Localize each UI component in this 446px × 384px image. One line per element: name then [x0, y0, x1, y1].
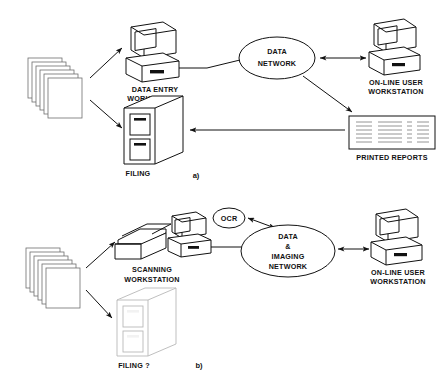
- ocr-label: OCR: [221, 214, 238, 223]
- ocr-node-icon: OCR: [213, 208, 245, 228]
- data-entry-label-line1: DATA ENTRY: [132, 85, 179, 94]
- online-user-a-label-line2: WORKSTATION: [368, 87, 423, 96]
- online-user-b-label-line2: WORKSTATION: [370, 277, 425, 286]
- online-user-workstation-icon-a: ON-LINE USER WORKSTATION: [368, 19, 423, 96]
- online-user-b-label-line1: ON-LINE USER: [371, 268, 426, 277]
- scanning-label-line2: WORKSTATION: [124, 275, 179, 284]
- data-entry-workstation-icon: DATA ENTRY WORKSTATION: [126, 22, 183, 103]
- caption-b: b): [195, 361, 203, 370]
- printed-reports-label: PRINTED REPORTS: [356, 153, 427, 162]
- data-network-label-line2: NETWORK: [258, 59, 297, 68]
- data-network-ellipse: DATA NETWORK: [239, 37, 315, 79]
- imaging-label-line2: &: [285, 242, 290, 251]
- scanning-label-line1: SCANNING: [132, 265, 172, 274]
- imaging-network-ellipse: DATA & IMAGING NETWORK: [241, 225, 335, 277]
- data-network-label-line1: DATA: [267, 47, 287, 56]
- online-user-workstation-icon-b: ON-LINE USER WORKSTATION: [370, 209, 425, 286]
- online-user-a-label-line1: ON-LINE USER: [369, 78, 424, 87]
- imaging-label-line1: DATA: [278, 232, 298, 241]
- caption-a: a): [193, 171, 200, 180]
- figure-root: DATA ENTRY WORKSTATION FILING DATA NETWO…: [0, 0, 446, 384]
- imaging-label-line3: IMAGING: [272, 252, 305, 261]
- imaging-label-line4: NETWORK: [269, 262, 308, 271]
- filing-a-label: FILING: [126, 169, 151, 178]
- filing-b-label: FILING ?: [118, 361, 150, 370]
- printed-report-icon: PRINTED REPORTS: [349, 116, 435, 162]
